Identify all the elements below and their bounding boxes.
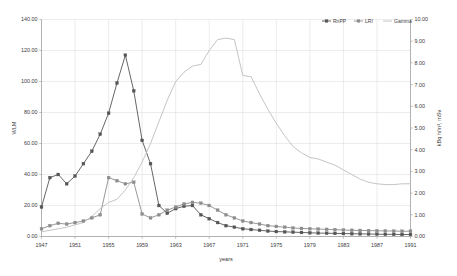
- data-point-lri: [116, 179, 119, 182]
- legend-marker-lri: [357, 20, 360, 23]
- data-point-lri: [166, 209, 169, 212]
- y-axis-right-tick-label: 9.00: [415, 38, 426, 44]
- x-axis-tick-label: 1971: [237, 242, 249, 248]
- y-axis-left-tick-label: 60.00: [24, 140, 38, 146]
- data-point-rnpp: [283, 230, 286, 233]
- gridlines: [42, 20, 411, 237]
- y-axis-right-tick-label: 0.00: [415, 233, 426, 239]
- data-point-rnpp: [376, 233, 379, 236]
- data-point-rnpp: [141, 139, 144, 142]
- data-point-rnpp: [191, 204, 194, 207]
- series-line-gamma: [42, 38, 411, 232]
- x-axis-tick-label: 1947: [36, 242, 48, 248]
- data-point-rnpp: [99, 133, 102, 136]
- data-point-lri: [300, 227, 303, 230]
- data-point-lri: [258, 223, 261, 226]
- data-point-lri: [225, 213, 228, 216]
- y-axis-right-tick-label: 4.00: [415, 147, 426, 153]
- data-point-lri: [384, 229, 387, 232]
- data-point-rnpp: [107, 112, 110, 115]
- data-point-rnpp: [342, 232, 345, 235]
- x-axis-tick-labels: 1947195119551959196319671971197519791983…: [36, 242, 417, 248]
- legend-marker-rnpp: [325, 20, 328, 23]
- data-point-lri: [208, 204, 211, 207]
- x-axis-tick-label: 1975: [270, 242, 282, 248]
- data-point-lri: [334, 228, 337, 231]
- data-point-lri: [99, 213, 102, 216]
- x-axis-tick-label: 1991: [405, 242, 417, 248]
- tick-marks: [39, 20, 412, 239]
- y-axis-right-tick-label: 6.00: [415, 103, 426, 109]
- data-point-lri: [174, 206, 177, 209]
- y-axis-right-tick-label: 2.00: [415, 190, 426, 196]
- x-axis-tick-label: 1987: [371, 242, 383, 248]
- y-axis-left-title: WLM: [11, 121, 17, 134]
- y-axis-left-tick-label: 80.00: [24, 109, 38, 115]
- data-point-lri: [149, 216, 152, 219]
- data-point-rnpp: [199, 213, 202, 216]
- data-point-lri: [65, 223, 68, 226]
- data-point-rnpp: [65, 182, 68, 185]
- chart-legend: RnPPLRIGamma: [322, 18, 412, 24]
- data-point-rnpp: [233, 226, 236, 229]
- series-line-lri: [42, 178, 411, 232]
- legend-label-gamma: Gamma: [394, 18, 412, 24]
- data-point-rnpp: [292, 231, 295, 234]
- data-point-lri: [409, 230, 412, 233]
- data-point-rnpp: [166, 212, 169, 215]
- y-axis-left-tick-label: 0.00: [27, 233, 38, 239]
- x-axis-tick-label: 1979: [304, 242, 316, 248]
- y-axis-left-tick-label: 120.00: [21, 47, 38, 53]
- y-axis-right-tick-label: 8.00: [415, 60, 426, 66]
- data-point-rnpp: [124, 54, 127, 57]
- data-point-lri: [40, 227, 43, 230]
- y-axis-left-tick-labels: 0.0020.0040.0060.0080.00100.00120.00140.…: [21, 16, 38, 239]
- y-axis-right-tick-label: 5.00: [415, 125, 426, 131]
- data-point-rnpp: [392, 233, 395, 236]
- y-axis-left-tick-label: 100.00: [21, 78, 38, 84]
- legend-label-rnpp: RnPP: [333, 18, 347, 24]
- data-point-rnpp: [132, 89, 135, 92]
- data-point-lri: [342, 229, 345, 232]
- series-line-rnpp: [42, 55, 411, 234]
- data-point-lri: [124, 182, 127, 185]
- data-point-rnpp: [250, 228, 253, 231]
- data-point-rnpp: [350, 232, 353, 235]
- data-point-lri: [317, 228, 320, 231]
- data-point-rnpp: [409, 233, 412, 236]
- data-point-lri: [325, 228, 328, 231]
- chart-plot: 0.0020.0040.0060.0080.00100.00120.00140.…: [0, 0, 457, 276]
- y-axis-right-tick-labels: 0.001.002.003.004.005.006.007.008.009.00…: [415, 16, 429, 239]
- y-axis-left-tick-label: 140.00: [21, 16, 38, 22]
- data-point-rnpp: [308, 231, 311, 234]
- data-point-lri: [233, 216, 236, 219]
- data-point-lri: [57, 222, 60, 225]
- chart-container: 0.0020.0040.0060.0080.00100.00120.00140.…: [0, 0, 457, 276]
- data-point-lri: [141, 213, 144, 216]
- axes: [42, 20, 411, 237]
- data-point-rnpp: [300, 231, 303, 234]
- data-point-lri: [275, 225, 278, 228]
- y-axis-right-title: kBq h/m³, mSv: [436, 109, 442, 146]
- data-point-rnpp: [275, 230, 278, 233]
- data-markers-layer: [40, 54, 412, 236]
- x-axis-tick-label: 1967: [203, 242, 215, 248]
- data-point-rnpp: [401, 233, 404, 236]
- y-axis-right-tick-label: 7.00: [415, 82, 426, 88]
- data-point-lri: [82, 220, 85, 223]
- data-point-rnpp: [82, 162, 85, 165]
- data-point-rnpp: [241, 227, 244, 230]
- data-point-rnpp: [74, 175, 77, 178]
- data-point-rnpp: [90, 150, 93, 153]
- data-point-rnpp: [325, 232, 328, 235]
- data-point-rnpp: [157, 204, 160, 207]
- data-point-lri: [350, 229, 353, 232]
- data-point-rnpp: [57, 173, 60, 176]
- data-point-rnpp: [266, 230, 269, 233]
- data-point-lri: [359, 229, 362, 232]
- data-point-lri: [107, 176, 110, 179]
- data-point-lri: [308, 227, 311, 230]
- data-point-lri: [191, 201, 194, 204]
- data-point-lri: [376, 229, 379, 232]
- data-point-rnpp: [367, 233, 370, 236]
